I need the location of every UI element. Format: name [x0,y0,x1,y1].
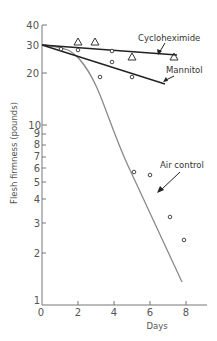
x-tick-2: 2 [75,307,81,318]
y-tick-1: 1 [34,295,40,306]
circle-points [59,47,186,242]
x-tick-8: 8 [183,307,189,318]
y-tick-9: 9 [34,128,40,139]
cycloheximide-label: Cycloheximide [138,33,200,43]
air-control-arrow [161,172,180,190]
x-tick-4: 4 [111,307,117,318]
air-control-point [98,75,102,79]
mannitol-label: Mannitol [166,65,203,75]
y-tick-8: 8 [34,139,40,150]
y-tick-3: 3 [34,218,40,229]
mannitol-point [110,60,114,64]
x-ticks [78,301,186,305]
air-control-point [168,215,172,219]
mannitol-point [76,48,80,52]
x-tick-6: 6 [147,307,153,318]
y-tick-6: 6 [34,163,40,174]
y-tick-40: 40 [26,20,39,31]
air-control-point [132,170,136,174]
y-tick-5: 5 [34,177,40,188]
triangle-marker [91,38,99,45]
y-axis-title: Flesh firmness (pounds) [9,102,19,204]
y-tick-20: 20 [26,68,39,79]
x-axis-title: Days [146,321,168,331]
air-control-point [148,173,152,177]
mannitol-point [110,49,114,53]
firmness-chart: 40 30 20 10 9 8 7 6 5 4 3 2 1 0 2 4 6 8 … [0,0,217,341]
mannitol-point [59,47,63,51]
triangle-marker [128,53,136,60]
y-tick-4: 4 [34,194,40,205]
air-control-arrowhead [157,186,164,193]
triangle-marker [74,38,82,45]
air-control-label: Air control [160,160,204,170]
air-control-point [182,238,186,242]
y-tick-30: 30 [26,40,39,51]
air-control-point [130,75,134,79]
y-tick-2: 2 [34,248,40,259]
x-tick-0: 0 [38,307,44,318]
y-ticks [42,25,47,253]
y-tick-7: 7 [34,151,40,162]
mannitol-arrowhead [163,77,168,82]
